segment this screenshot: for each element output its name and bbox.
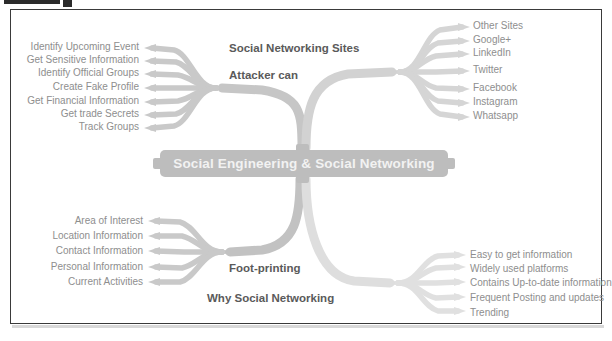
root-node: Social Engineering & Social Networking [160,150,448,177]
leaf-item: Track Groups [0,122,139,135]
cropped-heading-fragment-2 [63,0,72,7]
cropped-heading-fragment [4,0,60,4]
leaf-item: Other Sites [473,21,603,35]
branch-label-why-social-networking: Why Social Networking [207,292,334,304]
branch-label-foot-printing: Foot-printing [229,262,301,274]
leaf-item: Frequent Posting and updates [470,293,612,308]
leaf-item: Location Information [0,231,143,246]
root-node-label: Social Engineering & Social Networking [173,156,435,171]
leaf-list-why-social-networking: Easy to get information Widely used plat… [470,250,612,322]
branch-label-social-networking-sites: Social Networking Sites [229,42,359,54]
leaf-item: Personal Information [0,262,143,277]
leaf-item: Create Fake Profile [0,82,139,96]
leaf-item: Current Activities [0,277,143,292]
leaf-item: Widely used platforms [470,264,612,278]
leaf-item: LinkedIn [473,48,603,65]
mindmap-figure: Social Engineering & Social Networking S… [0,0,612,341]
leaf-item: Facebook [473,83,603,97]
leaf-item: Easy to get information [470,250,612,264]
leaf-list-social-networking-sites: Other Sites Google+ LinkedIn Twitter Fac… [473,21,603,125]
leaf-item: Identify Official Groups [0,68,139,82]
branch-label-attacker-can: Attacker can [229,69,298,81]
leaf-item: Area of Interest [0,216,143,231]
leaf-list-foot-printing: Area of Interest Location Information Co… [0,216,143,292]
figure-frame-shadow [12,325,604,328]
leaf-item: Instagram [473,97,603,111]
leaf-list-attacker-can: Identify Upcoming Event Get Sensitive In… [0,42,139,135]
leaf-item: Contains Up-to-date information [470,278,612,293]
leaf-item: Contact Information [0,246,143,262]
leaf-item: Trending [470,308,612,322]
leaf-item: Twitter [473,65,603,83]
leaf-item: Whatsapp [473,111,603,125]
